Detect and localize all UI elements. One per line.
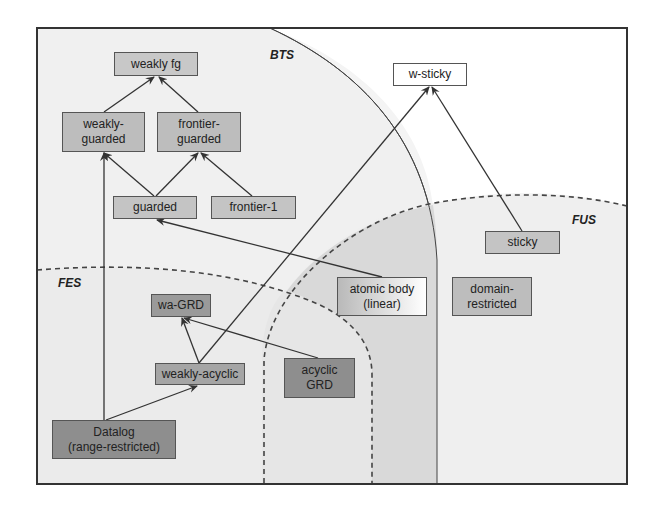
- node-domain-restricted: domain- restricted: [452, 277, 532, 316]
- node-sticky: sticky: [485, 231, 560, 254]
- node-atomic-body: atomic body (linear): [337, 277, 427, 316]
- node-guarded: guarded: [113, 196, 197, 219]
- fes-label: FES: [58, 276, 81, 290]
- bts-label: BTS: [270, 48, 294, 62]
- diagram-canvas: BTS FUS FES weakly fgweakly- guardedfron…: [0, 0, 664, 520]
- node-wa-grd: wa-GRD: [151, 294, 211, 317]
- fus-label: FUS: [572, 213, 596, 227]
- node-w-sticky: w-sticky: [393, 63, 467, 86]
- node-datalog: Datalog (range-restricted): [52, 420, 176, 459]
- node-acyclic-grd: acyclic GRD: [284, 358, 355, 398]
- node-weakly-guarded: weakly- guarded: [62, 112, 145, 152]
- node-weakly-acyclic: weakly-acyclic: [155, 363, 245, 385]
- node-weakly-fg: weakly fg: [114, 52, 198, 76]
- node-frontier-1: frontier-1: [211, 196, 296, 219]
- node-frontier-guarded: frontier- guarded: [157, 112, 241, 152]
